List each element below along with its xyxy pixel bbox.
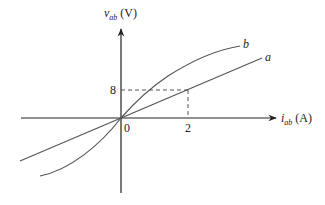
y-tick-8: 8: [110, 83, 116, 97]
x-tick-2: 2: [185, 121, 191, 135]
curve-b-label: b: [243, 37, 249, 51]
origin-label: 0: [124, 121, 130, 135]
curve-a: [20, 58, 262, 161]
v-i-characteristic-chart: a b 0 2 8 vab(V) iab(A): [0, 0, 325, 205]
y-axis-label: vab(V): [104, 6, 137, 22]
curve-a-label: a: [265, 50, 271, 64]
curve-b: [40, 46, 240, 176]
x-axis-label: iab(A): [281, 111, 312, 127]
